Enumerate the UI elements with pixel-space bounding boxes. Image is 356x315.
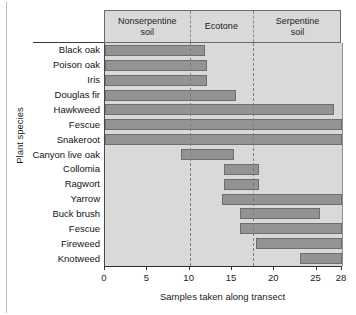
- x-tick: [341, 266, 342, 270]
- x-tick-label: 25: [310, 272, 321, 283]
- bar: [222, 194, 342, 205]
- zone-divider-line: [190, 43, 191, 266]
- category-label: Canyon live oak: [32, 149, 100, 160]
- category-label-column: Black oakPoison oakIrisDouglas firHawkwe…: [0, 43, 100, 266]
- category-label: Buck brush: [52, 208, 100, 219]
- x-tick: [316, 266, 317, 270]
- x-tick-label: 0: [101, 272, 106, 283]
- category-label: Knotweed: [58, 253, 100, 264]
- category-label: Fescue: [69, 223, 100, 234]
- category-label: Black oak: [59, 44, 100, 55]
- x-tick: [231, 266, 232, 270]
- zone-label-nonserpentine: Nonserpentine soil: [105, 11, 190, 42]
- zone-label-ecotone: Ecotone: [190, 11, 253, 42]
- zone-nonserpentine-line1: Nonserpentine: [118, 16, 177, 26]
- x-axis-line: [104, 266, 341, 267]
- bar: [105, 104, 334, 115]
- category-label: Snakeroot: [57, 134, 100, 145]
- chart-figure: Plant species Nonserpentine soil Ecotone…: [0, 0, 356, 315]
- category-label: Douglas fir: [55, 89, 100, 100]
- zone-ecotone-text: Ecotone: [205, 21, 238, 32]
- category-label: Fescue: [69, 119, 100, 130]
- zone-nonserpentine-line2: soil: [141, 27, 155, 37]
- zone-serpentine-line2: soil: [291, 27, 305, 37]
- x-tick-label: 10: [183, 272, 194, 283]
- category-label: Poison oak: [53, 59, 100, 70]
- bar: [105, 75, 207, 86]
- zone-separator: [190, 11, 191, 42]
- category-label: Iris: [87, 74, 100, 85]
- x-tick-label: 28: [336, 272, 347, 283]
- bar: [240, 223, 342, 234]
- bar: [105, 119, 342, 130]
- zone-divider-line: [253, 43, 254, 266]
- category-label: Fireweed: [61, 238, 100, 249]
- category-label: Yarrow: [71, 193, 100, 204]
- zone-header-band: Nonserpentine soil Ecotone Serpentine so…: [104, 10, 341, 43]
- zone-separator: [253, 11, 254, 42]
- bar: [300, 253, 342, 264]
- plot-area: [104, 43, 343, 266]
- category-label: Ragwort: [65, 178, 100, 189]
- zone-label-serpentine: Serpentine soil: [253, 11, 342, 42]
- x-tick: [104, 266, 105, 270]
- x-tick-label: 5: [144, 272, 149, 283]
- x-tick: [189, 266, 190, 270]
- x-tick: [146, 266, 147, 270]
- x-axis-title: Samples taken along transect: [104, 291, 341, 302]
- zone-serpentine-line1: Serpentine: [276, 16, 320, 26]
- category-label: Hawkweed: [54, 104, 100, 115]
- x-tick-label: 20: [268, 272, 279, 283]
- x-tick: [273, 266, 274, 270]
- bar: [105, 134, 342, 145]
- bar: [256, 238, 342, 249]
- bar: [105, 60, 207, 71]
- x-tick-label: 15: [226, 272, 237, 283]
- bar: [105, 90, 236, 101]
- category-label: Collomia: [63, 163, 100, 174]
